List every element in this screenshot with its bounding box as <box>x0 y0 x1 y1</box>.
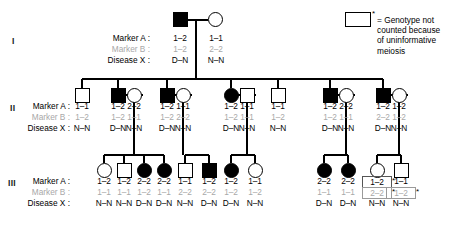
row-label-marker-a-i: Marker A : <box>72 33 150 43</box>
individual-ii-12-marker-b: 1–2 <box>384 112 414 122</box>
individual-i-1-disease-x: D–N <box>163 55 197 65</box>
individual-i-2-marker-a: 1–1 <box>199 33 233 43</box>
row-label-disease-x-ii: Disease X : <box>0 123 70 133</box>
individual-iii-12-disease-x: N–N <box>386 198 416 208</box>
individual-ii-5-marker-a: 1–1 <box>168 101 198 111</box>
individual-iii-12-marker-b-asterisk: * <box>416 188 419 196</box>
individual-ii-7-marker-b: 1–1 <box>232 112 262 122</box>
individual-ii-7-marker-a: 1–1 <box>232 101 262 111</box>
individual-i-1-marker-b: 1–2 <box>163 44 197 54</box>
individual-i-1-symbol[interactable] <box>173 12 188 27</box>
individual-iii-10-marker-b: 1–1 <box>333 187 363 197</box>
row-label-marker-b-iii: Marker B : <box>0 187 70 197</box>
individual-ii-10-disease-x: N–N <box>331 123 361 133</box>
pedigree-chart: * = Genotype not counted because of unin… <box>0 0 450 226</box>
individual-ii-12-disease-x: N–N <box>384 123 414 133</box>
individual-ii-3-marker-b: 1–1 <box>119 112 149 122</box>
individual-ii-10-marker-a: 2–2 <box>331 101 361 111</box>
individual-ii-7-disease-x: N–N <box>232 123 262 133</box>
individual-ii-3-disease-x: N–N <box>119 123 149 133</box>
individual-ii-12-marker-a: 1–2 <box>384 101 414 111</box>
row-label-marker-b-i: Marker B : <box>72 44 150 54</box>
individual-iii-12-marker-a: 1–1 <box>386 176 416 186</box>
individual-ii-1-marker-b: 1–2 <box>67 112 97 122</box>
generation-label-i: I <box>12 36 15 46</box>
individual-ii-3-marker-a: 2–2 <box>119 101 149 111</box>
row-label-disease-x-iii: Disease X : <box>0 198 70 208</box>
individual-i-2-marker-b: 2–2 <box>199 44 233 54</box>
individual-ii-10-marker-b: 1–1 <box>331 112 361 122</box>
individual-i-1-marker-a: 1–2 <box>163 33 197 43</box>
row-label-marker-a-ii: Marker A : <box>0 101 70 111</box>
individual-i-2-symbol[interactable] <box>208 12 223 27</box>
legend-caption: Genotype not counted because of uninform… <box>377 15 440 56</box>
individual-iii-10-marker-a: 2–2 <box>333 176 363 186</box>
legend-equals: = <box>377 15 382 25</box>
legend-asterisk: * <box>372 9 375 18</box>
individual-iii-10-disease-x: D–N <box>333 198 363 208</box>
individual-ii-1-marker-a: 1–1 <box>67 101 97 111</box>
individual-ii-5-disease-x: N–N <box>168 123 198 133</box>
individual-ii-8-marker-b: 1–2 <box>263 112 293 122</box>
individual-ii-5-marker-b: 2–2 <box>168 112 198 122</box>
row-label-marker-b-ii: Marker B : <box>0 112 70 122</box>
individual-ii-8-disease-x: N–N <box>263 123 293 133</box>
legend-empty-square-icon <box>345 12 371 27</box>
legend-description: = Genotype not counted because of uninfo… <box>377 15 449 56</box>
row-label-disease-x-i: Disease X : <box>72 55 150 65</box>
individual-ii-1-disease-x: N–N <box>67 123 97 133</box>
row-label-marker-a-iii: Marker A : <box>0 176 70 186</box>
individual-iii-8-marker-a: 1–1 <box>240 176 270 186</box>
individual-iii-8-disease-x: N–N <box>240 198 270 208</box>
individual-iii-8-marker-b: 1–2 <box>240 187 270 197</box>
individual-i-2-disease-x: N–N <box>199 55 233 65</box>
individual-ii-8-marker-a: 1–1 <box>263 101 293 111</box>
